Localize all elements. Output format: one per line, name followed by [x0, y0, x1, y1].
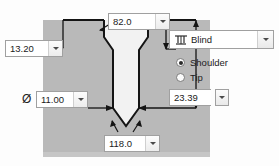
termination-label: Blind — [189, 34, 257, 45]
termination-dropdown[interactable] — [257, 31, 273, 48]
countersink-angle-dropdown[interactable] — [155, 14, 169, 29]
blind-depth-icon — [173, 32, 189, 47]
hole-diameter-field[interactable]: 11.00 — [36, 91, 88, 108]
termination-combo[interactable]: Blind — [169, 30, 274, 49]
drill-point-angle-value[interactable]: 118.0 — [105, 136, 145, 151]
chevron-down-icon — [219, 96, 225, 99]
depth-reference-option-tip[interactable]: Tip — [176, 72, 203, 83]
hole-depth-dropdown[interactable] — [215, 89, 229, 106]
chevron-down-icon — [160, 20, 166, 23]
countersink-depth-dropdown[interactable] — [48, 41, 62, 56]
chevron-down-icon — [150, 142, 156, 145]
countersink-angle-field[interactable]: 82.0 — [108, 13, 170, 30]
hole-depth-field[interactable]: 23.39 — [169, 89, 211, 106]
chevron-down-icon — [53, 47, 59, 50]
countersink-depth-field[interactable]: 13.20 — [5, 40, 63, 57]
chevron-down-icon — [78, 98, 84, 101]
hole-diameter-dropdown[interactable] — [73, 92, 87, 107]
hole-depth-value[interactable]: 23.39 — [170, 90, 211, 105]
radio-shoulder[interactable] — [176, 58, 185, 67]
radio-tip[interactable] — [176, 73, 185, 82]
depth-reference-option-shoulder[interactable]: Shoulder — [176, 57, 228, 68]
countersink-depth-value[interactable]: 13.20 — [6, 41, 48, 56]
hole-feature-preview: 82.0 13.20 Ø 11.00 23.39 118.0 — [0, 0, 279, 166]
drill-point-angle-dropdown[interactable] — [145, 136, 159, 151]
diameter-icon: Ø — [22, 93, 31, 105]
chevron-down-icon — [263, 38, 269, 41]
drill-point-angle-field[interactable]: 118.0 — [104, 135, 160, 152]
hole-cavity — [104, 20, 148, 126]
hole-depth-arrow-top — [193, 20, 199, 27]
radio-shoulder-label: Shoulder — [190, 57, 228, 68]
countersink-angle-value[interactable]: 82.0 — [109, 14, 155, 29]
radio-tip-label: Tip — [190, 72, 203, 83]
hole-diameter-value[interactable]: 11.00 — [37, 92, 73, 107]
